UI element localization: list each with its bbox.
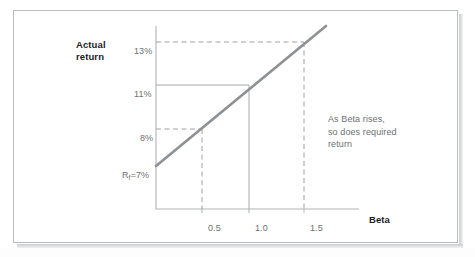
risk-free-rate-value: =7% bbox=[131, 170, 150, 180]
x-tick-label-1-0: 1.0 bbox=[255, 223, 268, 234]
x-tick-label-1-5: 1.5 bbox=[310, 223, 323, 234]
x-axis-title: Beta bbox=[369, 214, 390, 225]
figure-card: Actual return Beta 13% 11% 8% Rf=7% 0.5 … bbox=[13, 10, 458, 243]
scan-artifact-band bbox=[0, 248, 475, 257]
card-drop-shadow-bottom bbox=[17, 244, 463, 248]
chart-annotation-line3: return bbox=[328, 138, 397, 151]
x-tick-label-0-5: 0.5 bbox=[208, 223, 221, 234]
risk-free-rate-subscript: f bbox=[129, 174, 131, 181]
sml-chart: Actual return Beta 13% 11% 8% Rf=7% 0.5 … bbox=[14, 11, 459, 244]
page-canvas: Actual return Beta 13% 11% 8% Rf=7% 0.5 … bbox=[0, 0, 475, 257]
chart-annotation-line2: so does required bbox=[328, 126, 397, 139]
y-axis-title: Actual return bbox=[76, 39, 106, 63]
security-market-line bbox=[156, 26, 326, 166]
y-axis-title-line2: return bbox=[76, 51, 106, 63]
card-drop-shadow-right bbox=[459, 14, 463, 245]
y-tick-label-risk-free-rate: Rf=7% bbox=[122, 170, 149, 181]
y-tick-label-13pct: 13% bbox=[134, 46, 152, 57]
y-tick-label-11pct: 11% bbox=[134, 89, 152, 100]
chart-annotation-line1: As Beta rises, bbox=[328, 113, 397, 126]
y-axis-title-line1: Actual bbox=[76, 39, 106, 51]
chart-annotation: As Beta rises, so does required return bbox=[328, 113, 397, 151]
risk-free-rate-symbol: R bbox=[122, 170, 129, 180]
y-tick-label-8pct: 8% bbox=[140, 133, 153, 144]
